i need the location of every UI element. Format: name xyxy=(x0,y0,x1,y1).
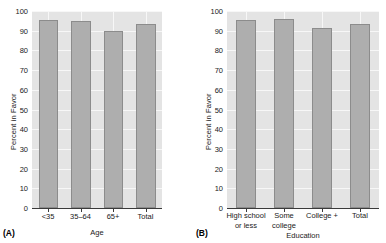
x-tick-label-line: Total xyxy=(333,211,386,221)
bar xyxy=(274,19,294,208)
bar xyxy=(136,24,156,208)
y-tick-label: 90 xyxy=(215,28,223,36)
y-tick-label: 30 xyxy=(20,146,28,154)
x-tick-label: Total xyxy=(333,211,386,221)
y-tick-label: 20 xyxy=(215,166,223,174)
bar xyxy=(104,31,124,208)
gridline xyxy=(32,11,162,12)
y-tick-label: 70 xyxy=(215,67,223,75)
y-tick-label: 90 xyxy=(20,28,28,36)
y-axis-tick-labels-b: 100 90 80 70 60 50 40 30 20 10 0 xyxy=(207,0,223,243)
y-tick-label: 40 xyxy=(215,126,223,134)
y-tick-label: 100 xyxy=(210,8,223,16)
x-tick-label: Total xyxy=(126,212,166,222)
bar xyxy=(236,20,256,208)
plot-area-a xyxy=(32,11,162,208)
y-tick-label: 40 xyxy=(20,126,28,134)
bar xyxy=(39,20,59,208)
bar xyxy=(71,21,91,208)
gridline xyxy=(227,11,379,12)
x-tick-label-line: college xyxy=(257,221,311,231)
panel-b: Percent in Favor 100 90 80 70 60 50 40 3… xyxy=(193,0,386,243)
y-tick-label: 80 xyxy=(20,47,28,55)
y-tick-label: 100 xyxy=(15,8,28,16)
y-tick-label: 50 xyxy=(215,107,223,115)
y-tick-label: 60 xyxy=(20,87,28,95)
x-axis-line-b xyxy=(227,208,379,209)
y-tick-label: 10 xyxy=(215,185,223,193)
y-tick-label: 10 xyxy=(20,185,28,193)
panel-label-a: (A) xyxy=(3,228,15,238)
bar xyxy=(350,24,370,208)
plot-area-b xyxy=(227,11,379,208)
y-axis-tick-labels-a: 100 90 80 70 60 50 40 30 20 10 0 xyxy=(12,0,28,243)
x-tick-label-line: Total xyxy=(126,212,166,222)
y-tick-label: 20 xyxy=(20,166,28,174)
y-tick-label: 60 xyxy=(215,87,223,95)
panel-a: Percent in Favor 100 90 80 70 60 50 40 3… xyxy=(0,0,193,243)
y-tick-label: 70 xyxy=(20,67,28,75)
x-axis-line-a xyxy=(32,208,162,209)
bar xyxy=(312,28,332,208)
x-axis-title-a: Age xyxy=(32,228,162,237)
figure-two-panel-bar-charts: Percent in Favor 100 90 80 70 60 50 40 3… xyxy=(0,0,386,243)
y-tick-label: 80 xyxy=(215,47,223,55)
y-tick-label: 30 xyxy=(215,146,223,154)
panel-label-b: (B) xyxy=(196,228,208,238)
y-tick-label: 50 xyxy=(20,107,28,115)
x-axis-title-b: Education xyxy=(227,231,379,240)
